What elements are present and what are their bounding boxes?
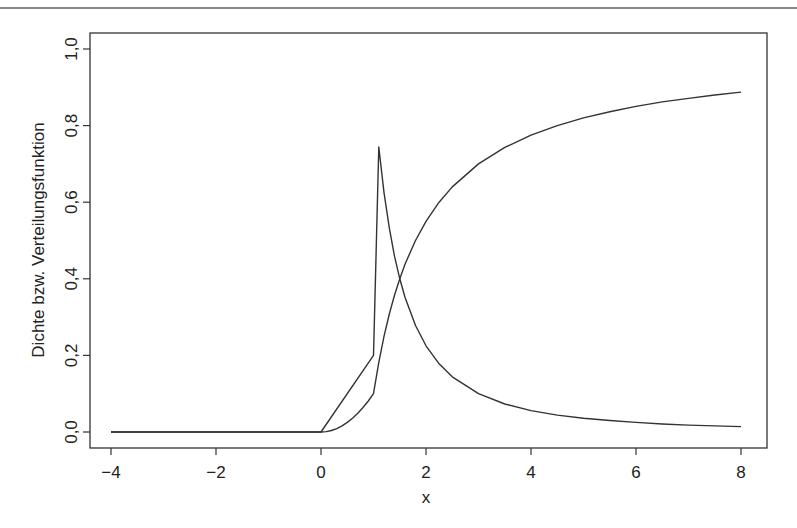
x-axis: −4−202468 bbox=[101, 448, 745, 482]
x-tick-label: −2 bbox=[206, 463, 225, 482]
x-tick-label: 8 bbox=[736, 463, 745, 482]
y-tick-label: 0,6 bbox=[62, 190, 81, 214]
density-line bbox=[111, 147, 741, 432]
y-tick-label: 0,4 bbox=[62, 267, 81, 291]
y-tick-label: 0,0 bbox=[62, 420, 81, 444]
y-tick-label: 0,8 bbox=[62, 114, 81, 138]
chart: −4−202468 0,00,20,40,60,81,0 x Dichte bz… bbox=[0, 0, 797, 528]
y-axis: 0,00,20,40,60,81,0 bbox=[62, 37, 90, 444]
y-tick-label: 0,2 bbox=[62, 344, 81, 368]
x-tick-label: 2 bbox=[421, 463, 430, 482]
x-axis-title: x bbox=[422, 488, 431, 507]
series-group bbox=[111, 92, 741, 432]
cdf-line bbox=[111, 92, 741, 432]
x-tick-label: 6 bbox=[631, 463, 640, 482]
y-tick-label: 1,0 bbox=[62, 37, 81, 61]
x-tick-label: −4 bbox=[101, 463, 120, 482]
x-tick-label: 4 bbox=[526, 463, 535, 482]
x-tick-label: 0 bbox=[316, 463, 325, 482]
y-axis-title: Dichte bzw. Verteilungsfunktion bbox=[29, 122, 48, 357]
plot-frame bbox=[90, 33, 767, 448]
